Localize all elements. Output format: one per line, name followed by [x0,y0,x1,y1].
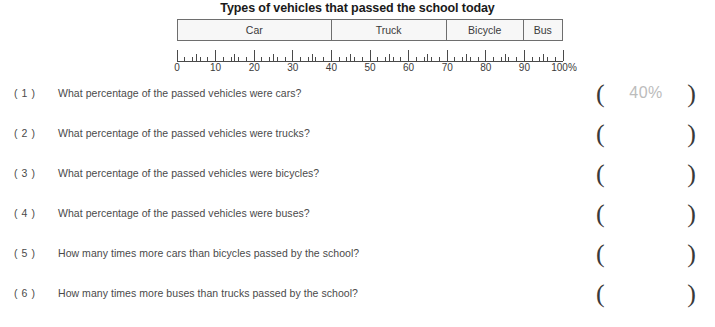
ruler-tick-45 [350,54,351,61]
question-row: ( 3 )What percentage of the passed vehic… [0,164,715,204]
percentage-ruler [177,50,563,62]
question-text: How many times more cars than bicycles p… [58,247,359,259]
bar-segment-label: Truck [376,25,402,36]
ruler-tick-labels: 0102030405060708090100% [177,63,563,77]
answer-field[interactable]: () [596,280,696,310]
question-text: What percentage of the passed vehicles w… [58,207,310,219]
question-list: ( 1 )What percentage of the passed vehic… [0,84,715,324]
answer-field[interactable]: () [596,160,696,190]
ruler-tick-60 [408,50,409,61]
ruler-tick-82 [493,57,494,61]
ruler-tick-54 [385,57,386,61]
ruler-tick-35 [312,54,313,61]
stacked-bar-chart: CarTruckBicycleBus 010203040506070809010… [177,19,563,77]
ruler-tick-34 [308,57,309,61]
ruler-tick-36 [315,57,316,61]
ruler-tick-46 [354,57,355,61]
ruler-tick-66 [431,57,432,61]
tick-label-0: 0 [174,63,180,73]
ruler-tick-24 [269,57,270,61]
ruler-tick-58 [400,57,401,61]
tick-label-60: 60 [403,63,414,73]
ruler-tick-90 [524,50,525,61]
answer-paren-right: ) [687,200,696,228]
ruler-tick-30 [292,50,293,61]
ruler-tick-50 [370,50,371,61]
answer-paren-left: ( [596,240,605,268]
answer-paren-right: ) [687,120,696,148]
question-row: ( 5 )How many times more cars than bicyc… [0,244,715,284]
question-number: ( 3 ) [14,167,58,179]
ruler-tick-100 [563,50,564,61]
answer-field[interactable]: () [596,120,696,150]
tick-label-70: 70 [442,63,453,73]
ruler-tick-84 [501,57,502,61]
bar-segment-bus: Bus [524,20,562,40]
ruler-tick-32 [300,57,301,61]
question-text: What percentage of the passed vehicles w… [58,87,302,99]
ruler-tick-95 [543,54,544,61]
ruler-tick-22 [261,57,262,61]
answer-value[interactable]: 40% [596,84,696,102]
bar-segment-bicycle: Bicycle [447,20,524,40]
ruler-tick-72 [454,57,455,61]
ruler-tick-98 [555,57,556,61]
tick-label-90: 90 [519,63,530,73]
answer-field[interactable]: () [596,240,696,270]
ruler-tick-48 [362,57,363,61]
answer-paren-left: ( [596,160,605,188]
answer-field[interactable]: (40%) [596,80,696,110]
ruler-tick-96 [547,57,548,61]
answer-paren-right: ) [687,240,696,268]
question-row: ( 4 )What percentage of the passed vehic… [0,204,715,244]
tick-label-80: 80 [480,63,491,73]
tick-label-40: 40 [326,63,337,73]
ruler-tick-68 [439,57,440,61]
answer-paren-left: ( [596,120,605,148]
question-text: What percentage of the passed vehicles w… [58,127,310,139]
ruler-tick-85 [505,54,506,61]
ruler-tick-74 [462,57,463,61]
ruler-tick-62 [416,57,417,61]
question-number: ( 5 ) [14,247,58,259]
ruler-tick-92 [532,57,533,61]
ruler-tick-28 [285,57,286,61]
answer-paren-left: ( [596,200,605,228]
answer-field[interactable]: () [596,200,696,230]
bar-segment-label: Car [246,25,263,36]
ruler-tick-16 [238,57,239,61]
chart-title: Types of vehicles that passed the school… [0,1,715,15]
ruler-tick-94 [539,57,540,61]
bar-segment-car: Car [178,20,332,40]
tick-label-30: 30 [287,63,298,73]
answer-paren-right: ) [687,160,696,188]
ruler-tick-55 [389,54,390,61]
ruler-tick-0 [177,50,178,61]
ruler-tick-15 [234,54,235,61]
answer-paren-right: ) [687,80,696,108]
ruler-tick-70 [447,50,448,61]
ruler-tick-75 [466,54,467,61]
ruler-tick-20 [254,50,255,61]
ruler-tick-18 [246,57,247,61]
question-text: What percentage of the passed vehicles w… [58,167,319,179]
question-number: ( 4 ) [14,207,58,219]
ruler-tick-65 [427,54,428,61]
ruler-tick-38 [323,57,324,61]
ruler-tick-88 [516,57,517,61]
ruler-tick-78 [478,57,479,61]
ruler-tick-14 [231,57,232,61]
ruler-tick-52 [377,57,378,61]
ruler-tick-42 [339,57,340,61]
question-row: ( 6 )How many times more buses than truc… [0,284,715,324]
ruler-tick-56 [393,57,394,61]
question-number: ( 1 ) [14,87,58,99]
ruler-tick-5 [196,54,197,61]
question-row: ( 2 )What percentage of the passed vehic… [0,124,715,164]
ruler-tick-64 [424,57,425,61]
tick-label-50: 50 [364,63,375,73]
ruler-tick-10 [215,50,216,61]
question-number: ( 6 ) [14,287,58,299]
question-number: ( 2 ) [14,127,58,139]
ruler-tick-86 [508,57,509,61]
